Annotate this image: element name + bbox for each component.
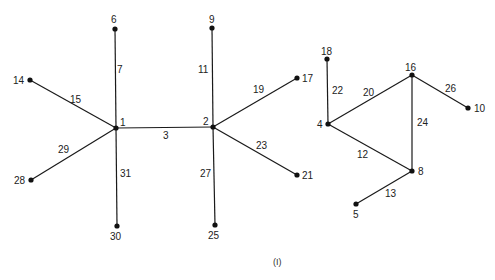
edge-label: 24 — [417, 117, 429, 128]
edge-label: 11 — [198, 64, 209, 75]
node-label: 17 — [302, 73, 314, 84]
edge-8-5 — [356, 171, 412, 204]
edges-layer — [30, 28, 468, 226]
node-dot-1 — [113, 125, 118, 130]
node-dot-18 — [324, 56, 329, 61]
node-labels-layer: 1261428309172125181610485 — [13, 14, 486, 242]
node-label: 25 — [208, 230, 220, 241]
edge-label: 20 — [363, 87, 375, 98]
edge-2-9 — [212, 28, 213, 127]
edge-label: 23 — [256, 140, 268, 151]
node-label: 21 — [302, 170, 314, 181]
edge-1-28 — [31, 128, 116, 180]
node-label: 14 — [13, 75, 25, 86]
node-dot-17 — [294, 75, 299, 80]
edge-label: 19 — [253, 84, 265, 95]
edge-4-8 — [328, 124, 412, 171]
edge-label: 31 — [120, 168, 132, 179]
edge-label: 29 — [58, 144, 70, 155]
node-dot-6 — [112, 26, 117, 31]
node-dot-8 — [409, 168, 414, 173]
node-label: 16 — [405, 62, 417, 73]
edge-2-25 — [213, 127, 215, 225]
node-dot-28 — [28, 177, 33, 182]
node-label: 30 — [110, 231, 122, 242]
node-label: 1 — [120, 117, 126, 128]
node-dot-16 — [409, 72, 414, 77]
figure-caption: (I) — [273, 257, 282, 267]
edge-4-16 — [328, 75, 412, 124]
edge-label: 13 — [385, 188, 397, 199]
node-dot-25 — [212, 222, 217, 227]
node-label: 6 — [111, 14, 117, 25]
node-label: 8 — [418, 166, 424, 177]
node-dot-2 — [210, 124, 215, 129]
node-dot-10 — [465, 105, 470, 110]
node-label: 4 — [317, 119, 323, 130]
node-dot-4 — [325, 121, 330, 126]
edge-1-30 — [116, 128, 117, 226]
edge-label: 26 — [445, 83, 457, 94]
edge-label: 27 — [200, 168, 212, 179]
node-label: 2 — [203, 116, 209, 127]
node-label: 5 — [353, 209, 359, 220]
edge-label: 3 — [163, 130, 169, 141]
edge-label: 7 — [117, 64, 123, 75]
edge-label: 15 — [70, 94, 82, 105]
graph-diagram: 3715293111192327222012242613 12614283091… — [0, 0, 495, 280]
node-dot-21 — [294, 172, 299, 177]
node-dot-5 — [353, 201, 358, 206]
edge-1-6 — [115, 29, 116, 128]
edge-4-18 — [327, 59, 328, 124]
node-label: 10 — [474, 103, 486, 114]
node-dot-9 — [209, 25, 214, 30]
node-label: 18 — [321, 46, 333, 57]
edge-16-10 — [412, 75, 468, 108]
node-label: 28 — [14, 175, 26, 186]
edge-label: 12 — [357, 149, 369, 160]
node-dot-14 — [27, 77, 32, 82]
edge-2-21 — [213, 127, 297, 175]
edge-1-2 — [116, 127, 213, 128]
edge-label: 22 — [332, 85, 344, 96]
node-dot-30 — [114, 223, 119, 228]
nodes-layer — [27, 25, 470, 228]
node-label: 9 — [209, 14, 215, 25]
